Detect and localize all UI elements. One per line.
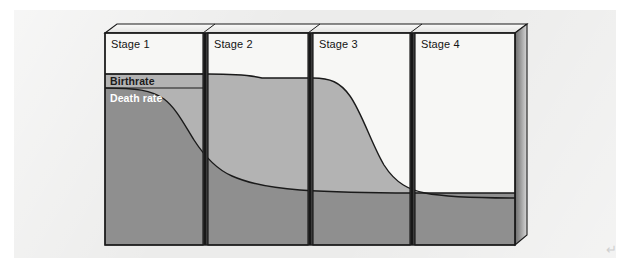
stage-divider-3-core bbox=[411, 33, 413, 245]
corner-mark: ↵ bbox=[606, 243, 616, 257]
block-top-face bbox=[105, 24, 527, 33]
stage-label-stage-4: Stage 4 bbox=[421, 38, 460, 50]
stage-divider-2-core bbox=[309, 33, 311, 245]
figure-root: Stage 1 Stage 2 Stage 3 Stage 4 Birthrat… bbox=[0, 0, 630, 275]
block-right-side-face bbox=[515, 24, 527, 245]
demographic-transition-diagram bbox=[0, 0, 630, 275]
stage-divider-1-core bbox=[204, 33, 206, 245]
band-below-deathrate-stage4 bbox=[412, 193, 515, 245]
stage-label-stage-3: Stage 3 bbox=[319, 38, 358, 50]
legend-label-death-rate: Death rate bbox=[110, 92, 162, 104]
legend-label-birthrate: Birthrate bbox=[110, 75, 155, 87]
page-bottom-margin bbox=[0, 258, 630, 275]
stage-label-stage-1: Stage 1 bbox=[111, 38, 150, 50]
stage-label-stage-2: Stage 2 bbox=[214, 38, 253, 50]
